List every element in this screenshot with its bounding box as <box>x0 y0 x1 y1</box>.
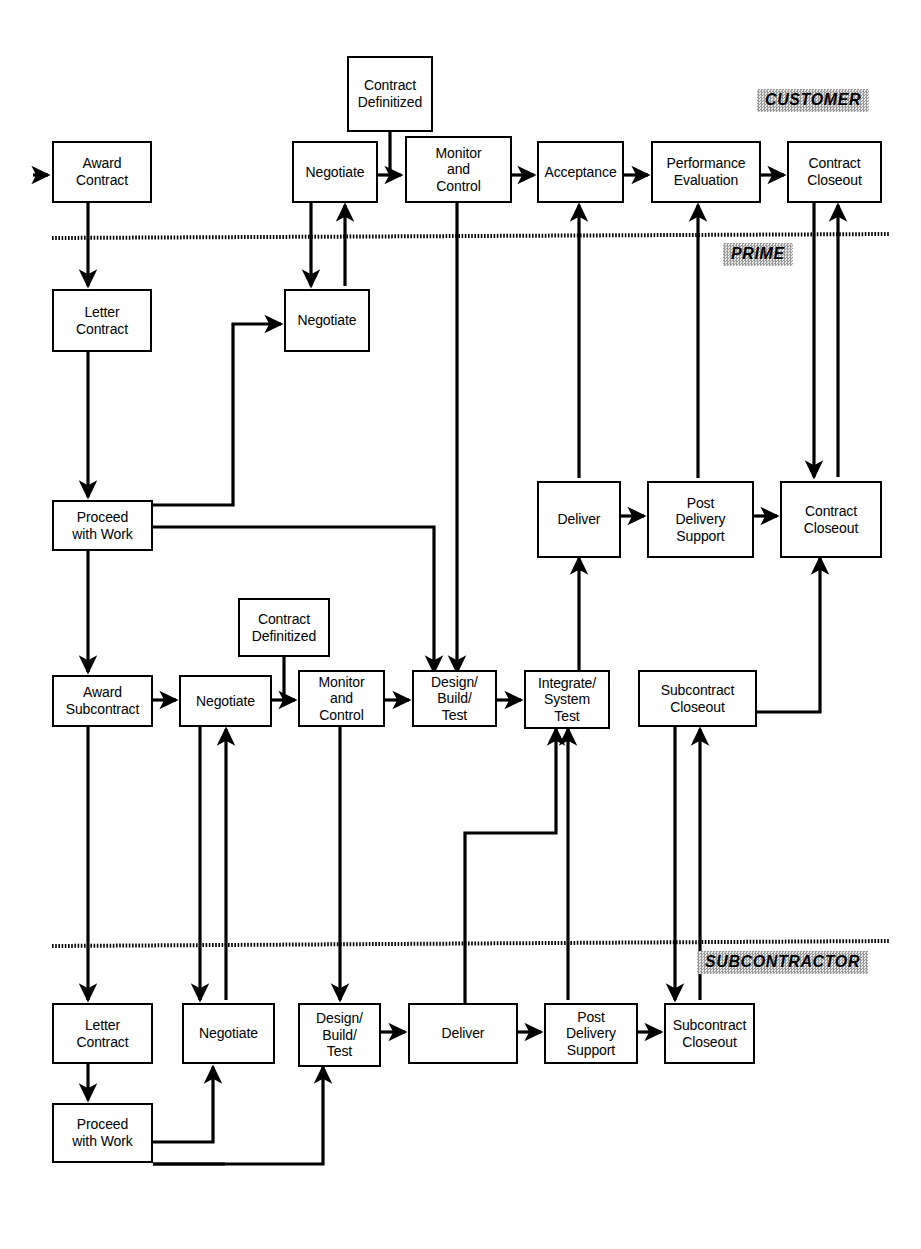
node-prime-letter-contract[interactable]: Letter Contract <box>52 289 152 352</box>
swimlane-label-prime: PRIME <box>723 243 793 266</box>
edge-sub-design-to-integrate <box>465 729 556 1008</box>
node-cust-negotiate[interactable]: Negotiate <box>292 141 378 203</box>
swimlane-dividers <box>52 234 890 946</box>
node-sub-negotiate[interactable]: Negotiate <box>182 1003 275 1064</box>
node-prime-award-subcontract[interactable]: Award Subcontract <box>52 675 153 727</box>
divider-customer-prime <box>52 234 890 238</box>
node-cust-acceptance[interactable]: Acceptance <box>537 141 624 203</box>
edge-sub-closeout-to-prime-closeout <box>757 558 820 712</box>
diagram-canvas: CUSTOMER PRIME SUBCONTRACTOR Award Contr… <box>0 0 921 1249</box>
node-cust-performance-evaluation[interactable]: Performance Evaluation <box>651 141 761 203</box>
node-prime-sub-monitor-control[interactable]: Monitor and Control <box>298 670 385 727</box>
node-cust-award-contract[interactable]: Award Contract <box>52 141 152 203</box>
divider-prime-subcontractor <box>52 941 890 946</box>
node-prime-integrate-system-test[interactable]: Integrate/ System Test <box>524 670 610 729</box>
node-prime-negotiate[interactable]: Negotiate <box>284 289 370 352</box>
swimlane-label-subcontractor: SUBCONTRACTOR <box>697 951 868 974</box>
node-sub-deliver[interactable]: Deliver <box>408 1003 518 1064</box>
node-sub-subcontract-closeout[interactable]: Subcontract Closeout <box>664 1003 755 1064</box>
node-cust-monitor-control[interactable]: Monitor and Control <box>405 136 512 203</box>
node-prime-deliver[interactable]: Deliver <box>537 481 621 558</box>
node-prime-design-build-test[interactable]: Design/ Build/ Test <box>412 670 497 727</box>
node-sub-letter-contract[interactable]: Letter Contract <box>52 1003 153 1064</box>
node-prime-proceed-with-work[interactable]: Proceed with Work <box>52 500 153 551</box>
node-cust-contract-definitized[interactable]: Contract Definitized <box>347 56 433 132</box>
node-prime-subcontract-closeout[interactable]: Subcontract Closeout <box>638 670 757 727</box>
swimlane-label-customer: CUSTOMER <box>757 89 869 112</box>
node-prime-contract-closeout[interactable]: Contract Closeout <box>780 481 882 558</box>
node-prime-sub-negotiate[interactable]: Negotiate <box>179 675 272 727</box>
edge-proceed-to-prime-negotiate <box>153 324 281 505</box>
node-sub-proceed-with-work[interactable]: Proceed with Work <box>52 1103 153 1163</box>
node-sub-design-build-test[interactable]: Design/ Build/ Test <box>298 1003 381 1067</box>
node-prime-sub-contract-definitized[interactable]: Contract Definitized <box>238 598 330 657</box>
node-cust-contract-closeout[interactable]: Contract Closeout <box>787 141 882 203</box>
node-sub-post-delivery-support[interactable]: Post Delivery Support <box>544 1003 638 1064</box>
edge-sub-proceed-to-negotiate <box>153 1067 213 1142</box>
edge-sub-proceed-to-design-2 <box>153 1067 323 1164</box>
node-prime-post-delivery-support[interactable]: Post Delivery Support <box>647 481 754 558</box>
